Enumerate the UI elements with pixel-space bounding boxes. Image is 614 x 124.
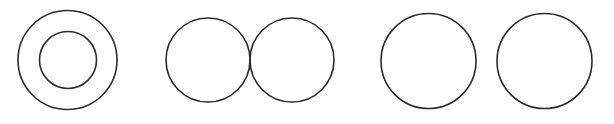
group-concentric-circles	[18, 11, 117, 110]
group-separate-circles	[381, 14, 592, 109]
circle-overlap-left[interactable]	[166, 18, 250, 102]
circle-separate-left[interactable]	[381, 14, 476, 109]
circle-diagram	[0, 0, 614, 124]
circle-overlap-right[interactable]	[250, 18, 334, 102]
circle-inner[interactable]	[40, 32, 97, 89]
circle-outer[interactable]	[18, 11, 117, 110]
circle-separate-right[interactable]	[497, 14, 592, 109]
group-overlapping-circles	[166, 18, 334, 102]
diagram-canvas	[0, 0, 614, 124]
